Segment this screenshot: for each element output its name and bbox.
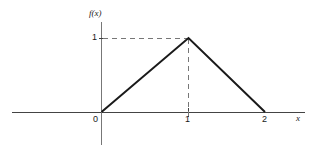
y-tick-label-1: 1 — [92, 33, 97, 42]
triangular-function-figure: f(x) x 0 1 2 1 — [0, 0, 314, 149]
x-axis-title: x — [296, 114, 300, 123]
x-tick-label-1: 1 — [185, 115, 190, 124]
x-tick-label-0: 0 — [93, 115, 98, 124]
y-axis-title: f(x) — [89, 9, 102, 18]
x-tick-label-2: 2 — [262, 115, 267, 124]
plot-canvas — [0, 0, 314, 149]
function-curve — [102, 38, 266, 112]
